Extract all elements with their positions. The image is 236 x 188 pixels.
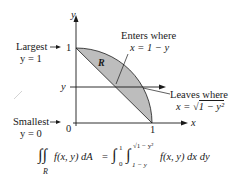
- x-axis-label: x: [191, 117, 196, 128]
- region-label: R: [98, 57, 105, 68]
- rhs-integrand: f(x, y) dx dy: [160, 151, 210, 162]
- smallest-value: y = 0: [20, 128, 42, 139]
- smallest-label: Smallest: [13, 116, 49, 127]
- largest-arrow-icon: [56, 45, 61, 49]
- leaves-equation: x = √1 − y²: [176, 101, 224, 112]
- outer-lower-limit: 0: [119, 159, 123, 170]
- smallest-arrow-icon: [56, 120, 61, 124]
- largest-value: y = 1: [20, 53, 42, 64]
- y-tick-1: 1: [66, 42, 71, 53]
- enters-equation: x = 1 − y: [130, 42, 169, 53]
- leaves-label: Leaves where: [170, 89, 228, 100]
- region-r: [76, 48, 152, 123]
- equals-sign: =: [102, 151, 108, 162]
- stray-mark: [14, 91, 22, 99]
- outer-upper-limit: 1: [119, 143, 123, 154]
- outer-integral-sign: ∫: [112, 146, 116, 164]
- inner-integral-sign: ∫: [126, 146, 130, 164]
- inner-lower-limit: 1 − y: [132, 160, 147, 171]
- lhs-region-subscript: R: [43, 166, 48, 177]
- lhs-integrand: f(x, y) dA: [54, 151, 93, 162]
- origin-label: 0: [66, 123, 71, 134]
- y-level-arrow-icon: [159, 85, 166, 90]
- leaves-leader: [143, 88, 170, 94]
- x-axis-arrow-icon: [181, 121, 188, 126]
- integral-formula: ∫∫ R f(x, y) dA = ∫ 1 0 ∫ √1 − y² 1 − y …: [38, 142, 228, 186]
- largest-label: Largest: [16, 41, 47, 52]
- y-level-label: y: [61, 81, 66, 92]
- inner-upper-limit: √1 − y²: [133, 141, 153, 152]
- y-axis-label: y: [71, 9, 76, 20]
- enters-label: Enters where: [121, 30, 176, 41]
- double-integral-sign: ∫∫: [38, 146, 47, 164]
- x-tick-1: 1: [150, 124, 155, 135]
